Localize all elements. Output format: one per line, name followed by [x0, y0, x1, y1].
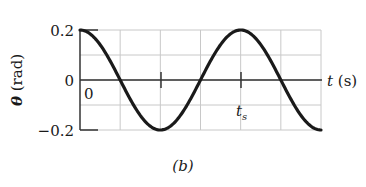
x-origin-label: 0 — [84, 85, 94, 103]
figure-caption: (b) — [0, 157, 366, 175]
y-axis-title: θ (rad) — [8, 54, 26, 106]
y-tick-label-zero: 0 — [64, 72, 74, 90]
x-axis-title: t (s) — [327, 72, 357, 90]
y-tick-label-max: 0.2 — [50, 22, 74, 40]
y-tick-label-min: −0.2 — [38, 122, 74, 140]
